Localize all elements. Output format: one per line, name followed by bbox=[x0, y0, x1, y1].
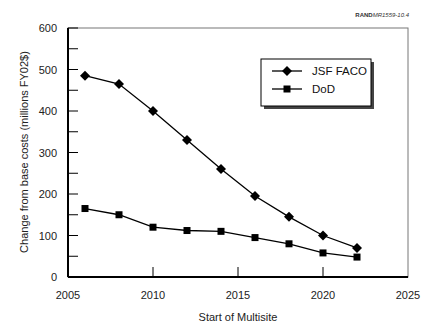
y-tick-label: 400 bbox=[39, 105, 57, 117]
x-axis-title: Start of Multisite bbox=[199, 311, 278, 323]
x-tick-label: 2025 bbox=[396, 289, 420, 301]
square-marker-icon bbox=[82, 205, 89, 212]
square-marker-icon bbox=[284, 86, 291, 93]
x-tick-label: 2015 bbox=[226, 289, 250, 301]
y-tick-label: 600 bbox=[39, 22, 57, 34]
square-marker-icon bbox=[286, 240, 293, 247]
diamond-marker-icon bbox=[284, 212, 294, 222]
legend: JSF FACO DoD bbox=[261, 59, 374, 109]
y-axis-title: Change from base costs (millions FY02$) bbox=[18, 51, 30, 253]
y-tick-label: 300 bbox=[39, 147, 57, 159]
legend-item-jsf: JSF FACO bbox=[312, 65, 367, 77]
square-marker-icon bbox=[320, 249, 327, 256]
y-tick-label: 100 bbox=[39, 230, 57, 242]
line-chart: 0100200300400500600 20052010201520202025… bbox=[0, 0, 431, 333]
y-tick-label: 200 bbox=[39, 188, 57, 200]
square-marker-icon bbox=[150, 224, 157, 231]
y-tick-label: 0 bbox=[51, 271, 57, 283]
square-marker-icon bbox=[116, 211, 123, 218]
diamond-marker-icon bbox=[352, 243, 362, 253]
x-tick-label: 2005 bbox=[56, 289, 80, 301]
square-marker-icon bbox=[218, 228, 225, 235]
y-axis-ticks: 0100200300400500600 bbox=[39, 22, 78, 283]
square-marker-icon bbox=[252, 234, 259, 241]
y-tick-label: 500 bbox=[39, 64, 57, 76]
x-axis-ticks: 20052010201520202025 bbox=[56, 267, 420, 301]
x-tick-label: 2010 bbox=[141, 289, 165, 301]
diamond-marker-icon bbox=[318, 231, 328, 241]
diamond-marker-icon bbox=[80, 71, 90, 81]
square-marker-icon bbox=[354, 254, 361, 261]
legend-item-dod: DoD bbox=[312, 83, 335, 95]
x-tick-label: 2020 bbox=[311, 289, 335, 301]
square-marker-icon bbox=[184, 227, 191, 234]
